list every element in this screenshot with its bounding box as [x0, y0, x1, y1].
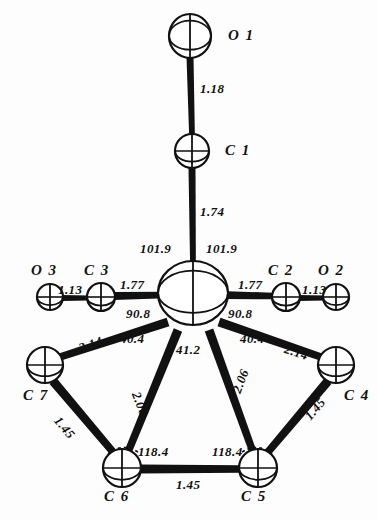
bond-length-label-O1-C1: 1.18: [200, 82, 224, 95]
atom-label-C7: C 7: [23, 388, 49, 403]
atom-O1[interactable]: [169, 14, 211, 58]
structure-drawing: [0, 0, 378, 520]
bond-length-label-M-C2: 1.77: [238, 278, 262, 291]
atom-label-C1: C 1: [225, 143, 251, 158]
bond-angle-label-C4-C5-C6: 118.4: [212, 445, 243, 458]
atom-label-C5: C 5: [241, 489, 267, 504]
atom-C3[interactable]: [87, 283, 115, 311]
bond-length-label-O3-C3: 1.13: [58, 283, 82, 296]
atom-label-C2: C 2: [268, 263, 294, 278]
atom-label-O3: O 3: [31, 263, 58, 278]
bond-M-C6: [125, 328, 183, 453]
atom-C7[interactable]: [27, 347, 63, 383]
bond-C6-C5: [140, 465, 240, 474]
bond-length-label-C3-M: 1.77: [120, 278, 144, 291]
atom-label-C6: C 6: [104, 489, 130, 504]
bond-M-C5: [205, 328, 257, 453]
bond-angle-label-C3-M-ring-left: 90.8: [126, 307, 150, 320]
bond-angle-label-C7-C6-C5: 118.4: [138, 445, 169, 458]
bond-angle-label-C1-M-C2: 101.9: [206, 242, 237, 255]
bond-angle-label-C2-M-ring-right: 90.8: [228, 307, 252, 320]
bond-length-label-C6-C5: 1.45: [176, 478, 200, 491]
atom-label-C3: C 3: [84, 263, 110, 278]
bond-M-C7: [59, 318, 170, 361]
bond-C4-C5: [265, 378, 331, 454]
atom-C6[interactable]: [103, 449, 141, 487]
bond-length-label-C2-O2: 1.13: [302, 283, 326, 296]
bond-O1-C1: [187, 57, 195, 135]
atom-M[interactable]: [158, 261, 228, 325]
atom-label-O2: O 2: [318, 263, 345, 278]
atom-C2[interactable]: [272, 283, 300, 311]
bond-angle-label-C1-M-C3: 101.9: [140, 242, 171, 255]
bond-C1-M: [189, 168, 196, 266]
atom-label-C4: C 4: [344, 388, 370, 403]
atom-O2[interactable]: [323, 284, 349, 310]
atom-C4[interactable]: [318, 347, 354, 383]
bond-length-label-C1-M: 1.74: [200, 205, 224, 218]
bond-angle-label-ring-right-40: 40.4: [240, 332, 264, 345]
bond-angle-label-ring-left-40: 40.4: [120, 332, 144, 345]
atom-C5[interactable]: [239, 449, 277, 487]
bond-angle-label-ring-center-41: 41.2: [176, 343, 200, 356]
molecular-structure-figure: O 1C 1O 3C 3C 2O 2C 7C 4C 6C 51.181.741.…: [0, 0, 378, 520]
atom-C1[interactable]: [175, 134, 209, 168]
atom-label-O1: O 1: [228, 28, 255, 43]
